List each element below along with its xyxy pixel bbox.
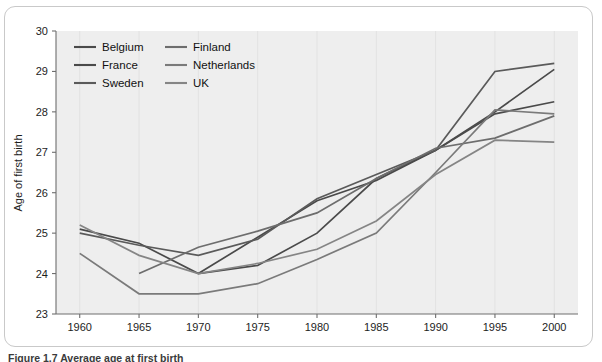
legend-label-finland: Finland [193, 41, 231, 53]
y-tick-label: 24 [36, 268, 48, 280]
x-tick-label: 1990 [423, 321, 447, 333]
legend-label-france: France [102, 59, 138, 71]
y-tick-label: 27 [36, 146, 48, 158]
y-tick-label: 26 [36, 187, 48, 199]
y-tick-label: 30 [36, 25, 48, 37]
y-tick-label: 23 [36, 308, 48, 320]
legend-label-belgium: Belgium [102, 41, 144, 53]
x-tick-label: 1960 [67, 321, 91, 333]
x-axis-ticks: 196019651970197519801985199019952000 [67, 314, 566, 333]
legend-label-sweden: Sweden [102, 77, 144, 89]
legend-label-netherlands: Netherlands [193, 59, 255, 71]
y-tick-label: 29 [36, 65, 48, 77]
x-tick-label: 1995 [483, 321, 507, 333]
x-tick-label: 1985 [364, 321, 388, 333]
y-tick-label: 25 [36, 227, 48, 239]
figure-frame: 2324252627282930 19601965197019751980198… [4, 6, 593, 347]
x-tick-label: 1970 [186, 321, 210, 333]
x-tick-label: 1980 [305, 321, 329, 333]
line-chart: 2324252627282930 19601965197019751980198… [5, 7, 592, 346]
x-tick-label: 2000 [542, 321, 566, 333]
y-axis-title: Age of first birth [12, 134, 24, 211]
legend-label-uk: UK [193, 77, 209, 89]
y-axis-ticks: 2324252627282930 [36, 25, 56, 320]
figure-caption: Figure 1.7 Average age at first birth [8, 352, 568, 362]
x-tick-label: 1965 [127, 321, 151, 333]
x-tick-label: 1975 [245, 321, 269, 333]
y-tick-label: 28 [36, 106, 48, 118]
